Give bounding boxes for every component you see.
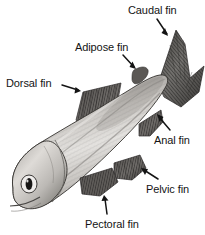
label-pectoral-fin: Pectoral fin [85,218,139,230]
fish-eye [21,175,37,193]
fish-anatomy-figure: Caudal fin Adipose fin Dorsal fin Anal f… [0,0,205,235]
label-pelvic-fin: Pelvic fin [146,183,189,195]
label-adipose-fin: Adipose fin [75,41,128,53]
label-dorsal-fin: Dorsal fin [6,77,51,89]
label-anal-fin: Anal fin [154,134,190,146]
label-caudal-fin: Caudal fin [128,4,177,16]
fish-illustration [0,0,205,235]
